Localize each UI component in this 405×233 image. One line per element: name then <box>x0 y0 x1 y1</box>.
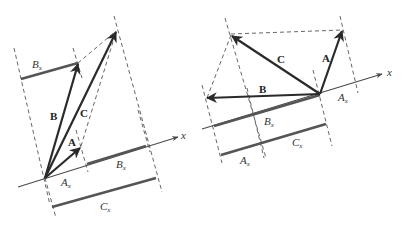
label-bx-axis-left: Bx <box>116 158 127 172</box>
dash-b-to-c <box>78 31 116 63</box>
label-a-right: A <box>322 52 330 64</box>
label-bx-right: Bx <box>264 115 275 129</box>
label-ax-right: Ax <box>337 91 349 105</box>
label-cx-right: Cx <box>292 136 303 150</box>
dash-c-to-a <box>231 30 343 34</box>
bx-bar-top <box>21 63 78 79</box>
label-c-left: C <box>80 107 88 119</box>
x-axis-label-left: x <box>180 129 186 141</box>
vector-c-right <box>232 36 320 94</box>
label-ax-bottom-right: Ax <box>239 154 251 168</box>
label-b-left: B <box>50 110 58 122</box>
dash-perp-origin-right <box>313 70 332 146</box>
label-b-right: B <box>259 83 267 95</box>
dash-perp-origin <box>45 178 56 218</box>
label-a-left: A <box>68 136 76 148</box>
label-ax-left: Ax <box>60 176 72 190</box>
vector-c-left <box>45 32 116 178</box>
dash-perp-a-tip-right <box>340 16 358 93</box>
left-figure: x B C A Bx Ax Bx Cx <box>14 16 186 218</box>
dash-a-to-c <box>81 32 116 146</box>
right-figure: x C A B Ax Bx Cx Ax <box>202 16 392 168</box>
label-c-right: C <box>277 53 285 65</box>
label-bx-top: Bx <box>32 58 43 72</box>
x-axis-label-right: x <box>386 66 392 78</box>
vector-projection-diagram: x B C A Bx Ax Bx Cx x <box>0 0 405 233</box>
label-cx-left: Cx <box>100 200 111 214</box>
dash-c-to-b <box>207 35 231 98</box>
